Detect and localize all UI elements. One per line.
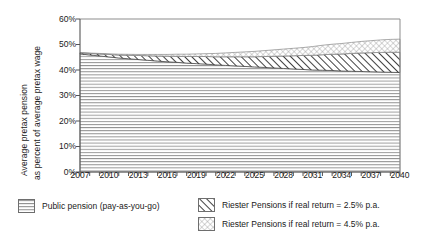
- stacked-area-chart: Average pretax pension as percent of ave…: [0, 0, 422, 243]
- legend-label-riester-25: Riester Pensions if real return = 2.5% p…: [222, 200, 380, 210]
- area-series-1: [80, 54, 400, 172]
- chart-legend: Public pension (pay-as-you-go) Riester P…: [0, 196, 422, 240]
- x-axis-tick-label: 2016: [152, 171, 182, 180]
- legend-item-riester-45: Riester Pensions if real return = 4.5% p…: [198, 217, 380, 231]
- x-axis-tick-label: 2007: [65, 171, 95, 180]
- x-axis-tick-label: 2025: [240, 171, 270, 180]
- x-axis-tick-label: 2040: [385, 171, 415, 180]
- legend-label-public-pension: Public pension (pay-as-you-go): [42, 201, 160, 211]
- x-axis-tick-label: 2034: [327, 171, 357, 180]
- x-axis-tick-label: 2019: [181, 171, 211, 180]
- x-axis-tick-label: 2022: [210, 171, 240, 180]
- legend-label-riester-45: Riester Pensions if real return = 4.5% p…: [222, 219, 380, 229]
- legend-swatch-crosshatch-icon: [198, 217, 215, 231]
- legend-swatch-diagonal-hatch-icon: [198, 198, 215, 212]
- legend-swatch-horizontal-lines-icon: [18, 199, 35, 213]
- x-axis-tick-labels: 2007201020132016201920222025202820312034…: [0, 171, 422, 185]
- x-axis-tick-label: 2010: [94, 171, 124, 180]
- x-axis-tick-label: 2028: [269, 171, 299, 180]
- x-axis-tick-label: 2013: [123, 171, 153, 180]
- legend-item-riester-25: Riester Pensions if real return = 2.5% p…: [198, 198, 380, 212]
- x-axis-tick-label: 2031: [298, 171, 328, 180]
- x-axis-tick-label: 2037: [356, 171, 386, 180]
- legend-item-public-pension: Public pension (pay-as-you-go): [18, 199, 160, 213]
